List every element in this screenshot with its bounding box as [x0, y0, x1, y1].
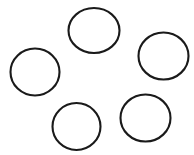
figure-canvas: [0, 0, 194, 155]
circles-figure-svg: [0, 0, 194, 155]
